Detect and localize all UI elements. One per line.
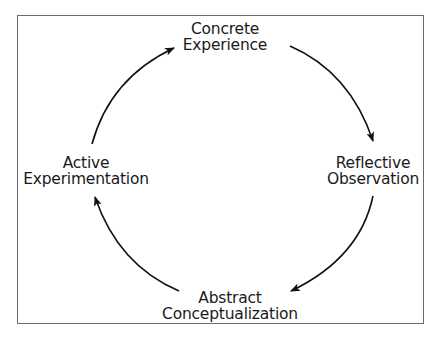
node-reflective-observation: Reflective Observation: [322, 155, 424, 187]
node-line2: Observation: [322, 171, 424, 187]
arrow-concrete-to-reflective: [290, 46, 373, 141]
node-line1: Reflective: [322, 155, 424, 171]
node-concrete-experience: Concrete Experience: [170, 21, 280, 53]
node-active-experimentation: Active Experimentation: [20, 155, 152, 187]
node-line2: Conceptualization: [150, 306, 310, 322]
arrow-abstract-to-active: [95, 197, 179, 291]
arrow-active-to-concrete: [92, 48, 174, 144]
node-line1: Active: [20, 155, 152, 171]
node-line2: Experience: [170, 37, 280, 53]
node-abstract-conceptualization: Abstract Conceptualization: [150, 290, 310, 322]
node-line1: Abstract: [150, 290, 310, 306]
node-line2: Experimentation: [20, 171, 152, 187]
arrow-reflective-to-abstract: [291, 196, 373, 291]
node-line1: Concrete: [170, 21, 280, 37]
